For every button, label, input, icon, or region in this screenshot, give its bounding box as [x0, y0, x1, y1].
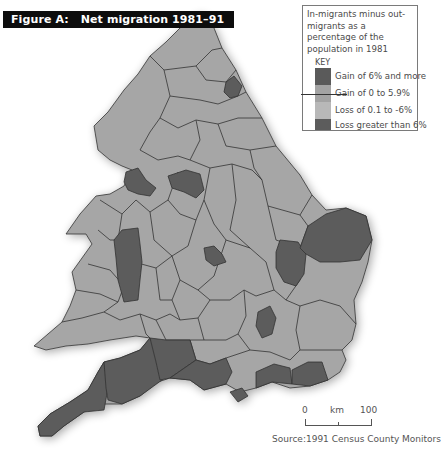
legend-heading: KEY — [315, 58, 330, 67]
legend-label-gain-6plus: Gain of 6% and more — [335, 71, 426, 81]
legend-label-loss-0.1-6: Loss of 0.1 to -6% — [335, 105, 412, 115]
figure-title-text: Net migration 1981–91 — [81, 13, 224, 26]
legend-divider-line — [301, 94, 347, 95]
scale-start: 0 — [302, 405, 308, 415]
scale-tick-start — [305, 419, 306, 426]
scale-tick-end — [371, 419, 372, 426]
legend-label-gain-0-5.9: Gain of 0 to 5.9% — [335, 88, 410, 98]
legend-box: In-migrants minus out-migrants as a perc… — [302, 5, 418, 131]
legend-swatch-loss-0.1-6 — [315, 102, 331, 119]
figure-title: Figure A:Net migration 1981–91 — [3, 11, 234, 28]
scale-bar: 0 km 100 — [300, 405, 410, 435]
legend-swatch-gain-6plus — [315, 68, 331, 85]
scale-tick-mid — [338, 422, 339, 426]
source-citation: Source:1991 Census County Monitors — [272, 434, 441, 444]
legend-swatch-loss-6plus — [315, 119, 331, 130]
legend-label-loss-6plus: Loss greater than 6% — [335, 120, 427, 130]
legend-description: In-migrants minus out-migrants as a perc… — [307, 9, 417, 55]
region-cornwall — [38, 362, 108, 436]
figure-label: Figure A: — [11, 13, 69, 26]
scale-unit: km — [330, 405, 344, 415]
scale-end: 100 — [360, 405, 377, 415]
